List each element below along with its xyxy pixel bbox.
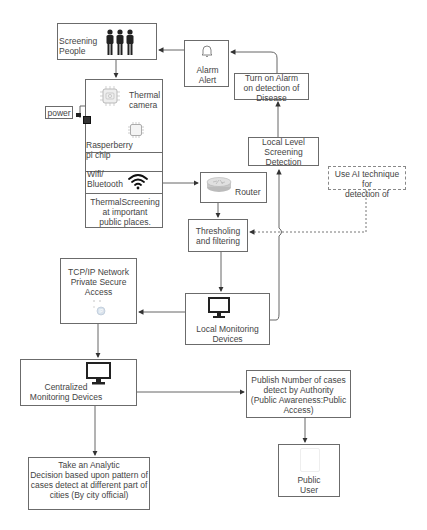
tcpip-network-node[interactable]: TCP/IP Network Private Secure Access IP	[60, 258, 137, 324]
power-connector-icon	[83, 116, 91, 124]
raspberry-pi-label: Rasperberry pi chip	[86, 140, 133, 160]
svg-text:IP: IP	[99, 309, 103, 314]
ai-technique-node[interactable]: Use AI technique for detection of	[328, 166, 406, 190]
alarm-alert-label: Alarm Alert	[185, 65, 230, 85]
edge-localmon-to-locallevel	[270, 170, 282, 320]
alarm-alert-node[interactable]: Alarm Alert	[184, 40, 229, 87]
local-monitoring-node[interactable]: Local Monitoring Devices	[185, 293, 270, 345]
router-node[interactable]: Router	[200, 172, 267, 203]
local-level-screening-label: Local Level Screening Detection	[249, 137, 318, 167]
monitor-icon	[208, 297, 230, 319]
tcpip-network-label: TCP/IP Network Private Secure Access	[61, 267, 136, 297]
turn-on-alarm-node[interactable]: Turn on Alarm on detection of Disease	[234, 73, 309, 100]
analytic-decision-node[interactable]: Take an Analytic Decision based upon pat…	[28, 457, 150, 510]
local-level-screening-node[interactable]: Local Level Screening Detection	[248, 137, 319, 166]
power-label: power	[46, 108, 72, 118]
analytic-decision-label: Take an Analytic Decision based upon pat…	[29, 460, 149, 500]
power-node[interactable]: power	[45, 106, 73, 119]
local-monitoring-label: Local Monitoring Devices	[186, 324, 269, 344]
thermal-caption-label: ThermalScreening at important public pla…	[86, 197, 164, 227]
centralized-monitoring-label: Centralized Monitoring Devices	[25, 382, 107, 402]
public-user-label: Public User	[279, 475, 339, 495]
router-icon	[206, 177, 232, 193]
centralized-monitoring-node[interactable]: Centralized Monitoring Devices	[20, 359, 137, 406]
power-plug-icon	[76, 113, 81, 117]
thermal-camera-chip-icon	[100, 86, 120, 106]
screening-people-label: Screening People	[59, 36, 97, 56]
ip-icon: IP	[91, 299, 107, 317]
screening-people-node[interactable]: Screening People	[57, 23, 157, 60]
thermal-screening-caption-box	[85, 152, 163, 153]
phone-icon	[300, 448, 320, 472]
router-label: Router	[235, 187, 261, 197]
people-icon	[105, 29, 135, 56]
thermal-camera-label: Thermal camera	[129, 90, 160, 110]
thresholding-node[interactable]: Thresholing and filtering	[188, 219, 248, 252]
ai-technique-label: Use AI technique for detection of	[329, 169, 405, 199]
thermal-screening-unit[interactable]: Thermal camera Rasperberry pi chip Wifi/…	[85, 79, 163, 172]
thermal-screening-caption: ThermalScreening at important public pla…	[85, 193, 163, 228]
publish-cases-node[interactable]: Publish Number of cases detect by Author…	[246, 370, 351, 418]
raspberry-pi-chip-icon	[128, 122, 144, 138]
public-user-node[interactable]: Public User	[278, 444, 340, 497]
thresholding-label: Thresholing and filtering	[189, 226, 247, 246]
bell-icon	[200, 44, 214, 58]
publish-cases-label: Publish Number of cases detect by Author…	[247, 375, 350, 415]
thermal-unit-border-ext	[85, 172, 163, 193]
edge-turnon-to-alarm	[231, 52, 277, 73]
turn-on-alarm-label: Turn on Alarm on detection of Disease	[235, 73, 308, 103]
